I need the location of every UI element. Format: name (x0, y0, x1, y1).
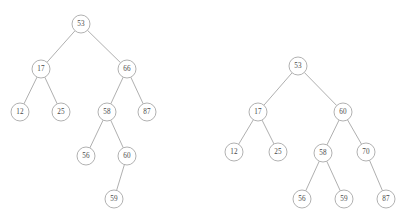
tree-edge (90, 120, 103, 148)
tree-edge (24, 77, 37, 104)
tree-node: 66 (118, 60, 136, 78)
node-label: 12 (16, 108, 24, 116)
node-label: 53 (294, 62, 302, 70)
tree-edge (327, 161, 341, 191)
tree-edge (131, 77, 143, 104)
tree-node: 58 (98, 103, 116, 121)
binary-tree-diagram: 5317661225588756605953176012255870565987 (0, 0, 405, 219)
node-label: 53 (77, 20, 85, 28)
node-label: 59 (110, 195, 118, 203)
node-label: 17 (254, 108, 262, 116)
node-label: 56 (298, 195, 306, 203)
node-label: 70 (362, 148, 370, 156)
tree-node: 60 (334, 103, 352, 121)
tree-node: 87 (138, 103, 156, 121)
tree-edge (239, 120, 254, 145)
tree-edge (306, 161, 320, 191)
tree-edge (111, 120, 124, 148)
tree-node: 25 (269, 143, 287, 161)
tree-node: 53 (72, 15, 90, 33)
node-label: 87 (143, 108, 151, 116)
tree-node: 87 (377, 190, 395, 208)
node-label: 58 (319, 149, 327, 157)
edges-layer (24, 30, 383, 191)
node-label: 66 (123, 65, 131, 73)
tree-node: 56 (77, 147, 95, 165)
tree-node: 12 (11, 103, 29, 121)
tree-node: 59 (335, 190, 353, 208)
tree-node: 12 (225, 143, 243, 161)
tree-node: 59 (105, 190, 123, 208)
node-label: 87 (382, 195, 390, 203)
tree-node: 25 (52, 103, 70, 121)
tree-node: 56 (293, 190, 311, 208)
tree-edge (262, 120, 274, 144)
tree-node: 70 (357, 143, 375, 161)
tree-node: 60 (118, 147, 136, 165)
node-label: 25 (57, 108, 65, 116)
tree-edge (264, 73, 292, 105)
tree-edge (47, 31, 75, 63)
tree-edge (87, 30, 120, 62)
node-label: 60 (123, 152, 131, 160)
tree-node: 17 (249, 103, 267, 121)
nodes-layer: 5317661225588756605953176012255870565987 (11, 15, 395, 208)
tree-edge (370, 160, 383, 190)
tree-edge (117, 165, 125, 191)
tree-edge (304, 72, 336, 105)
node-label: 17 (37, 65, 45, 73)
node-label: 12 (230, 148, 238, 156)
tree-node: 58 (314, 144, 332, 162)
tree-edge (327, 120, 339, 145)
node-label: 59 (340, 195, 348, 203)
tree-edge (111, 77, 123, 104)
node-label: 58 (103, 108, 111, 116)
node-label: 56 (82, 152, 90, 160)
tree-edge (347, 120, 361, 144)
tree-node: 53 (289, 57, 307, 75)
tree-edge (45, 77, 57, 104)
tree-node: 17 (32, 60, 50, 78)
node-label: 60 (339, 108, 347, 116)
node-label: 25 (274, 148, 282, 156)
